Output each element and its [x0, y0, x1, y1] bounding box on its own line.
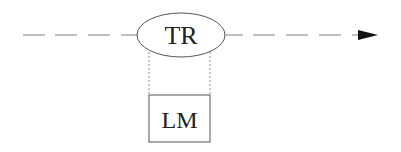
lm-node: LM [149, 95, 210, 142]
diagram-canvas: TR LM [0, 0, 401, 152]
lm-label: LM [162, 107, 198, 133]
tr-label: TR [164, 21, 198, 50]
tr-node: TR [137, 13, 225, 57]
arrowhead-icon [358, 30, 378, 40]
dotted-connectors [149, 52, 210, 95]
